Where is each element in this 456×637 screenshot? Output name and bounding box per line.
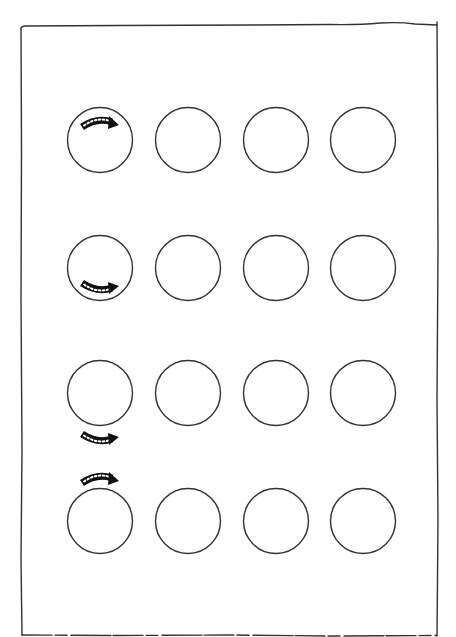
circle-r4c3	[244, 489, 309, 554]
circle-r4c2	[156, 489, 221, 554]
curved-arrow-icon-r3	[82, 433, 119, 445]
circle-r2c3	[244, 236, 309, 301]
circle-row-4	[68, 489, 396, 554]
circle-r2c4	[331, 236, 396, 301]
circle-row-2	[68, 236, 396, 301]
circle-r3c1	[68, 361, 133, 426]
circle-r3c4	[331, 361, 396, 426]
circle-r3c3	[244, 361, 309, 426]
circle-r3c2	[156, 361, 221, 426]
circle-r1c2	[156, 108, 221, 173]
curved-arrow-icon-r4	[82, 472, 119, 485]
circle-r2c2	[156, 236, 221, 301]
worksheet	[0, 0, 456, 637]
circle-row-1	[68, 108, 396, 173]
circle-r1c3	[244, 108, 309, 173]
worksheet-canvas	[0, 0, 456, 637]
circle-row-3	[68, 361, 396, 426]
circle-r4c4	[331, 489, 396, 554]
circle-r4c1	[68, 489, 133, 554]
circle-r1c4	[331, 108, 396, 173]
